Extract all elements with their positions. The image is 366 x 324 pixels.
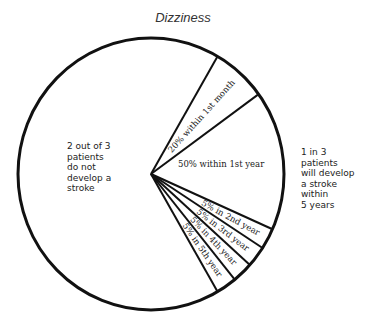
- pie-chart: Dizziness 20% within 1st month50% within…: [0, 0, 366, 324]
- annotation-line: 2 out of 3: [67, 141, 110, 151]
- annotation-line: stroke: [67, 183, 95, 193]
- annotation-line: 5 years: [301, 200, 335, 210]
- annotation-line: patients: [301, 158, 338, 168]
- annotation-line: will develop: [301, 168, 355, 178]
- annotation-line: 1 in 3: [301, 147, 326, 157]
- annotation-line: do not: [67, 162, 96, 172]
- slice-label: 50% within 1st year: [178, 159, 265, 169]
- annotation-line: within: [301, 189, 328, 199]
- annotation-line: develop a: [67, 173, 111, 183]
- annotation-line: a stroke: [301, 179, 337, 189]
- annotation-stroke: 1 in 3patientswill developa strokewithin…: [301, 147, 355, 210]
- chart-title: Dizziness: [155, 10, 211, 25]
- annotation-line: patients: [67, 152, 104, 162]
